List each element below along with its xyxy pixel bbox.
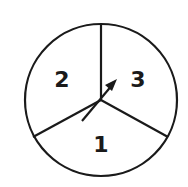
section-label-2: 2 xyxy=(54,67,69,92)
section-label-3: 3 xyxy=(130,67,145,92)
spinner-diagram: 2 3 1 xyxy=(0,0,188,187)
section-label-1: 1 xyxy=(93,132,108,157)
